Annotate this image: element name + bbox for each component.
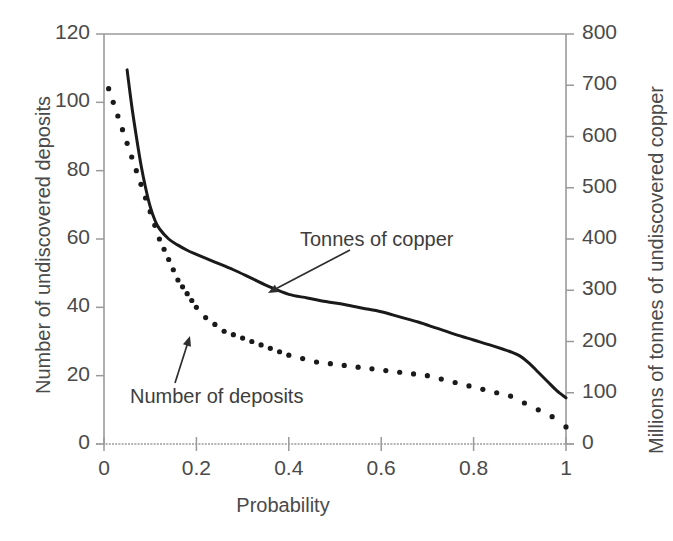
series-dot <box>439 376 444 381</box>
ytick-label-left: 0 <box>78 430 90 454</box>
series-dot <box>138 182 143 187</box>
series-dot <box>152 223 157 228</box>
ytick-label-left: 20 <box>67 362 90 386</box>
series-dot <box>171 267 176 272</box>
ytick-label-right: 200 <box>582 328 617 352</box>
series-dot <box>194 305 199 310</box>
series-dot <box>300 356 305 361</box>
series-dot <box>143 195 148 200</box>
series-dot <box>277 349 282 354</box>
series-dot <box>453 380 458 385</box>
series-dot <box>411 371 416 376</box>
series-dot <box>328 361 333 366</box>
series-dot <box>166 257 171 262</box>
series-dot <box>212 322 217 327</box>
series-dot <box>134 168 139 173</box>
series-dot <box>536 407 541 412</box>
ytick-label-right: 500 <box>582 174 617 198</box>
series-dot <box>175 277 180 282</box>
series-dot <box>550 414 555 419</box>
ytick-label-right: 0 <box>582 430 594 454</box>
chart-figure: 0204060801001200100200300400500600700800… <box>0 0 673 541</box>
series-dot <box>425 373 430 378</box>
xtick-label: 0.8 <box>434 456 514 480</box>
series-dot <box>161 247 166 252</box>
series-dot <box>120 127 125 132</box>
x-axis-title: Probability <box>0 494 566 517</box>
xtick-label: 0.6 <box>341 456 421 480</box>
series-dot <box>189 298 194 303</box>
series-dot <box>369 366 374 371</box>
series-dot <box>314 359 319 364</box>
series-dot <box>383 368 388 373</box>
y-axis-title-left: Number of undiscovered deposits <box>32 96 55 394</box>
series-dot <box>148 209 153 214</box>
y-axis-title-right: Millions of tonnes of undiscovered coppe… <box>645 86 668 454</box>
series-dot <box>240 335 245 340</box>
series-dot <box>522 400 527 405</box>
ytick-label-left: 60 <box>67 225 90 249</box>
series-dot <box>203 315 208 320</box>
ytick-label-right: 700 <box>582 71 617 95</box>
series-dot <box>185 291 190 296</box>
ytick-label-right: 600 <box>582 123 617 147</box>
ytick-label-right: 400 <box>582 225 617 249</box>
series-dot <box>342 363 347 368</box>
series-dot <box>563 424 568 429</box>
series-dot <box>222 329 227 334</box>
series-dot <box>106 86 111 91</box>
series-dot <box>249 339 254 344</box>
ytick-label-right: 100 <box>582 379 617 403</box>
xtick-label: 0.4 <box>249 456 329 480</box>
annotation-label-tonnes-of-copper: Tonnes of copper <box>300 228 453 251</box>
series-dot <box>397 370 402 375</box>
ytick-label-left: 80 <box>67 157 90 181</box>
series-dot <box>356 365 361 370</box>
series-dot <box>231 332 236 337</box>
xtick-label: 1 <box>526 456 606 480</box>
xtick-label: 0.2 <box>156 456 236 480</box>
series-dot <box>180 284 185 289</box>
ytick-label-left: 100 <box>55 88 90 112</box>
series-dot <box>258 342 263 347</box>
series-dot <box>286 353 291 358</box>
series-dot <box>268 346 273 351</box>
series-dot <box>115 113 120 118</box>
ytick-label-right: 300 <box>582 276 617 300</box>
series-dot <box>157 236 162 241</box>
ytick-label-left: 120 <box>55 20 90 44</box>
series-dot <box>480 387 485 392</box>
series-dots-number-of-deposits <box>106 86 569 429</box>
series-dot <box>111 100 116 105</box>
xtick-label: 0 <box>64 456 144 480</box>
series-dot <box>466 383 471 388</box>
series-dot <box>129 154 134 159</box>
series-dot <box>494 390 499 395</box>
ytick-label-left: 40 <box>67 293 90 317</box>
annotation-arrow-head-number-of-deposits <box>183 336 191 347</box>
ytick-label-right: 800 <box>582 20 617 44</box>
annotation-arrow-line-tonnes-of-copper <box>271 250 350 292</box>
series-dot <box>125 141 130 146</box>
series-dot <box>508 394 513 399</box>
annotation-label-number-of-deposits: Number of deposits <box>130 385 303 408</box>
